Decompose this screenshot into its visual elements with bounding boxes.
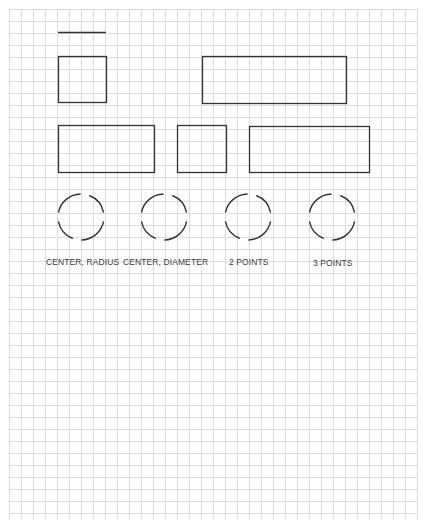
circle-arc: [141, 194, 163, 213]
circle-arc: [309, 194, 331, 213]
label-center-diameter: CENTER, DIAMETER: [123, 257, 208, 267]
circle-3-points[interactable]: [309, 194, 354, 240]
square-top[interactable]: [59, 57, 107, 103]
label-center-radius: CENTER, RADIUS: [46, 257, 119, 267]
circle-arc: [256, 196, 270, 213]
label-3-points: 3 POINTS: [313, 258, 353, 268]
circle-arc: [89, 196, 103, 213]
circle-arc: [172, 196, 186, 213]
circle-arc: [58, 221, 72, 238]
circle-2-points[interactable]: [225, 194, 270, 240]
rectangle-top-wide[interactable]: [203, 57, 347, 104]
circle-arc: [225, 194, 247, 213]
circle-center-diameter[interactable]: [141, 194, 186, 240]
circle-arc: [340, 196, 354, 213]
label-2-points: 2 POINTS: [229, 257, 269, 267]
